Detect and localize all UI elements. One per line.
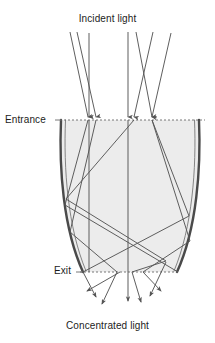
- exit-ray-6: [83, 272, 96, 297]
- concentrated-light-label: Concentrated light: [0, 320, 215, 331]
- incident-ray-2: [77, 32, 96, 117]
- cpc-ray-diagram-figure: Incident light Entrance Exit Concentrate…: [0, 0, 215, 343]
- incident-ray-7: [152, 33, 171, 117]
- exit-label: Exit: [54, 265, 71, 276]
- incident-ray-6: [134, 32, 153, 117]
- exit-ray-1: [87, 272, 120, 291]
- incident-ray-1: [70, 32, 88, 117]
- exit-ray-5: [143, 272, 161, 291]
- incident-ray-5: [136, 32, 152, 117]
- incident-light-label: Incident light: [0, 13, 215, 24]
- exit-ray-2: [102, 272, 117, 304]
- diagram-canvas: [0, 0, 215, 343]
- exit-ray-4: [132, 272, 141, 302]
- incident-ray-bundle: [70, 32, 171, 117]
- entrance-label: Entrance: [5, 114, 46, 125]
